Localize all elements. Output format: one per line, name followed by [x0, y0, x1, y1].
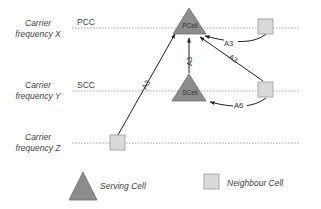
scell-triangle-icon [172, 74, 206, 101]
event-label-x-to-pcell: A3 [224, 39, 233, 48]
carrier-y-label-line2: frequency Y [15, 91, 62, 101]
scc-label: SCC [77, 80, 95, 90]
scell-label: SCell [182, 89, 198, 96]
carrier-z-label-line2: frequency Z [16, 143, 62, 153]
carrier-x-label-line1: Carrier [25, 18, 52, 28]
carrier-y-row: Carrier frequency Y SCC [15, 80, 300, 101]
pcell-label: PCell [182, 22, 198, 29]
carrier-z-row: Carrier frequency Z [16, 132, 300, 153]
legend: Serving Cell Neighbour Cell [69, 172, 284, 200]
carrier-z-label-line1: Carrier [25, 132, 52, 142]
legend-serving-cell-icon [69, 172, 97, 200]
scell: SCell [172, 74, 206, 101]
legend-neighbour-cell-icon [204, 174, 219, 189]
neighbour-cell-x-icon [258, 19, 273, 34]
legend-serving-cell-label: Serving Cell [100, 181, 147, 191]
pcc-label: PCC [77, 17, 95, 27]
event-label-scell-to-pcell: A3 [185, 57, 194, 66]
neighbour-cell-z-icon [110, 135, 125, 150]
legend-neighbour-cell-label: Neighbour Cell [227, 178, 284, 188]
carrier-aggregation-diagram: Carrier frequency X PCC Carrier frequenc… [0, 0, 321, 209]
event-label-y-to-scell: A6 [234, 101, 243, 110]
carrier-x-row: Carrier frequency X PCC [15, 17, 300, 39]
event-label-z-to-pcell: A3 [140, 79, 152, 91]
carrier-x-label-line2: frequency X [15, 29, 61, 39]
carrier-y-label-line1: Carrier [25, 80, 52, 90]
pcell-triangle-icon [173, 8, 206, 34]
neighbour-cell-y-icon [258, 82, 273, 97]
pcell: PCell [173, 8, 206, 34]
